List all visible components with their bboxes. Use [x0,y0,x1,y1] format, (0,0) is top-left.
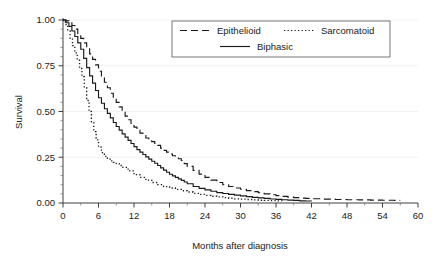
x-tick-label: 36 [271,210,282,221]
plot-canvas: 06121824303642485460 0.000.250.500.751.0… [0,0,433,257]
x-tick-label: 12 [129,210,140,221]
x-tick-label: 24 [200,210,211,221]
legend-label-epithelioid: Epithelioid [217,25,261,36]
x-axis-title: Months after diagnosis [192,240,288,251]
y-axis-title: Survival [13,95,24,129]
legend: EpithelioidSarcomatoidBiphasic [172,21,390,57]
x-tick-label: 42 [306,210,317,221]
y-tick-label: 0.00 [37,197,56,208]
legend-label-sarcomatoid: Sarcomatoid [321,25,374,36]
x-tick-label: 18 [164,210,175,221]
y-tick-label: 0.25 [37,152,56,163]
x-tick-label: 0 [60,210,65,221]
gridline-group [63,20,418,157]
series-curve-group [63,20,400,201]
axis-line-group [63,18,418,203]
tick-group [59,20,419,208]
survival-chart-figure: 06121824303642485460 0.000.250.500.751.0… [0,0,433,257]
y-tick-label: 0.75 [37,60,56,71]
x-tick-label: 60 [413,210,424,221]
x-tick-label: 6 [96,210,101,221]
x-tick-label: 30 [235,210,246,221]
x-tick-label-group: 06121824303642485460 [60,210,423,221]
y-tick-label: 0.50 [37,106,56,117]
x-tick-label: 54 [377,210,388,221]
x-tick-label: 48 [342,210,353,221]
y-tick-label-group: 0.000.250.500.751.00 [37,14,56,208]
legend-label-biphasic: Biphasic [257,41,293,52]
y-tick-label: 1.00 [37,14,56,25]
